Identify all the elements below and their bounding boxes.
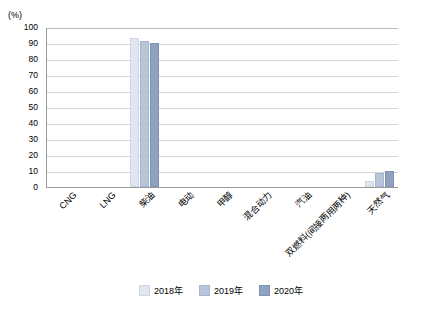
bar [150,43,159,187]
bar [375,173,384,187]
chart-legend: 2018年2019年2020年 [0,285,442,296]
bar-group [321,28,360,187]
bar-group [243,28,282,187]
plot-area [46,28,398,188]
legend-label: 2018年 [154,286,183,296]
legend-item[interactable]: 2018年 [139,285,183,296]
y-axis-tick: 90 [0,39,38,48]
bar [130,38,139,187]
legend-item[interactable]: 2019年 [199,285,243,296]
chart-container: (%) 1009080706050403020100 CNGLNG柴油电动甲醇混… [0,0,442,315]
y-axis-tick: 0 [0,183,38,192]
y-axis-unit-label: (%) [8,10,22,20]
legend-swatch-icon [139,285,150,296]
legend-swatch-icon [259,285,270,296]
bar-group [282,28,321,187]
legend-label: 2019年 [214,286,243,296]
y-axis-tick: 30 [0,135,38,144]
y-axis-tick: 80 [0,55,38,64]
bar-group [164,28,203,187]
x-axis-category-labels: CNGLNG柴油电动甲醇混合动力汽油双燃料(间接两用两种)天然气 [46,190,398,290]
y-axis-tick: 20 [0,151,38,160]
bar-group [86,28,125,187]
bar-series-area [47,28,398,187]
legend-item[interactable]: 2020年 [259,285,303,296]
y-axis-tick: 50 [0,103,38,112]
y-axis-tick: 60 [0,87,38,96]
bar-group [125,28,164,187]
bar [385,171,394,187]
bar-group [47,28,86,187]
bar-group [203,28,242,187]
y-axis-tick: 70 [0,71,38,80]
bar [140,41,149,187]
bar [365,181,374,187]
y-axis-tick: 100 [0,23,38,32]
x-axis-category-label: 柴油 [76,190,156,270]
legend-swatch-icon [199,285,210,296]
bar-group [360,28,399,187]
x-axis-category-label: CNG [53,190,78,215]
y-axis-tick: 10 [0,167,38,176]
y-axis-tick: 40 [0,119,38,128]
legend-label: 2020年 [274,286,303,296]
